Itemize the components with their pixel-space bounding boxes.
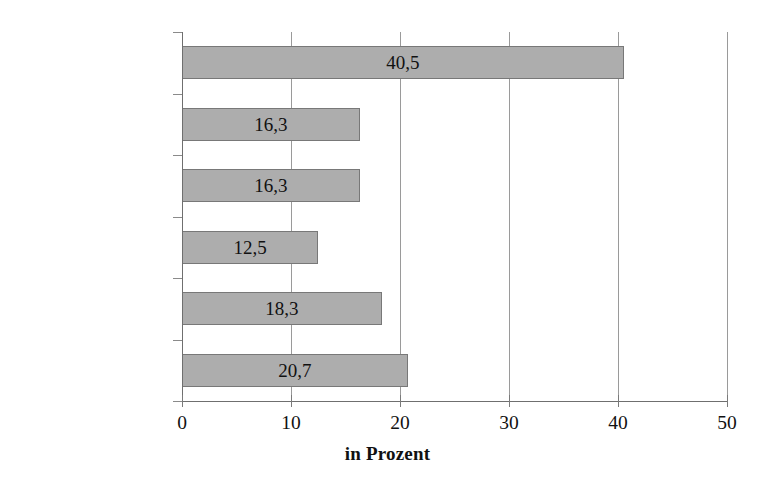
x-axis-tick-label-20: 20 xyxy=(370,412,430,434)
x-axis-tick xyxy=(727,395,728,407)
x-axis-tick-label-40: 40 xyxy=(588,412,648,434)
gridline-50 xyxy=(727,32,728,401)
x-axis-tick-label-10: 10 xyxy=(261,412,321,434)
chart-row: 20,7 xyxy=(182,340,727,402)
x-axis-tick-label-30: 30 xyxy=(479,412,539,434)
bar-value-musik: 16,3 xyxy=(182,169,360,202)
chart-row: 18,3 xyxy=(182,278,727,340)
bar-chart: 40,5 16,3 16,3 12,5 18,3 20,7 B xyxy=(0,0,775,494)
x-axis-tick xyxy=(291,395,292,407)
x-axis-tick xyxy=(182,395,183,407)
plot-area: 40,5 16,3 16,3 12,5 18,3 20,7 xyxy=(182,32,727,401)
chart-row: 16,3 xyxy=(182,94,727,156)
x-axis-tick xyxy=(400,395,401,407)
x-axis-line xyxy=(182,401,728,402)
y-axis-line xyxy=(182,32,183,402)
bar-value-sonstiges: 18,3 xyxy=(182,292,382,325)
bar-value-literatur: 12,5 xyxy=(182,231,318,264)
chart-row: 16,3 xyxy=(182,155,727,217)
y-axis-tick xyxy=(173,278,182,279)
y-axis-tick xyxy=(173,217,182,218)
x-axis-tick-label-0: 0 xyxy=(152,412,212,434)
chart-row: 12,5 xyxy=(182,217,727,279)
x-axis-tick-label-50: 50 xyxy=(697,412,757,434)
x-axis-tick xyxy=(618,395,619,407)
x-axis-title: in Prozent xyxy=(0,443,775,465)
bar-value-bildende-kunst: 40,5 xyxy=(182,46,624,79)
y-axis-tick xyxy=(173,401,182,402)
chart-row: 40,5 xyxy=(182,32,727,94)
y-axis-tick xyxy=(173,32,182,33)
bar-value-theater: 16,3 xyxy=(182,108,360,141)
y-axis-tick xyxy=(173,155,182,156)
x-axis-tick xyxy=(509,395,510,407)
y-axis-tick xyxy=(173,94,182,95)
y-axis-tick xyxy=(173,340,182,341)
bar-value-gesamt: 20,7 xyxy=(182,354,408,387)
